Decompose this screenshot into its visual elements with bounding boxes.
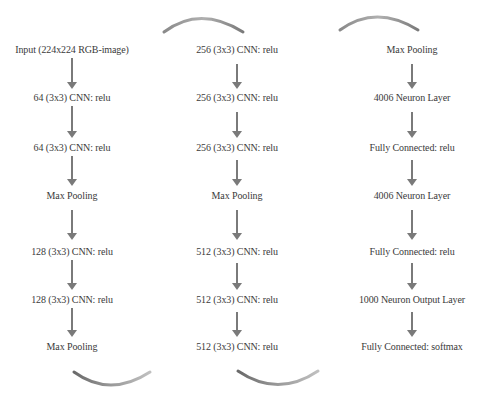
node-fc-relu-1: Fully Connected: relu <box>369 142 454 153</box>
node-conv128-1: 128 (3x3) CNN: relu <box>31 246 113 257</box>
node-neuron-layer-1: 4006 Neuron Layer <box>374 92 451 103</box>
curved-arrow-icon-top-right <box>340 17 418 30</box>
curved-arrow-icon-top-left <box>164 19 243 33</box>
down-arrow-icon <box>232 112 242 138</box>
node-output-layer: 1000 Neuron Output Layer <box>359 294 465 305</box>
node-fc-softmax: Fully Connected: softmax <box>361 341 462 352</box>
node-conv64-2: 64 (3x3) CNN: relu <box>34 142 111 153</box>
down-arrow-icon <box>67 210 77 240</box>
down-arrow-icon <box>407 112 417 138</box>
curved-arrow-icon-bottom-left <box>74 372 150 385</box>
down-arrow-icon <box>232 263 242 290</box>
down-arrow-icon <box>232 160 242 186</box>
down-arrow-icon <box>407 263 417 290</box>
down-arrow-icon <box>232 64 242 89</box>
down-arrow-icon <box>67 58 77 89</box>
node-maxpool-3: Max Pooling <box>212 190 263 201</box>
down-arrow-icon <box>67 156 77 186</box>
node-conv256-1: 256 (3x3) CNN: relu <box>196 44 278 55</box>
node-conv64-1: 64 (3x3) CNN: relu <box>34 92 111 103</box>
curved-arrow-icon-bottom-right <box>238 371 318 385</box>
down-arrow-icon <box>232 312 242 337</box>
node-conv128-2: 128 (3x3) CNN: relu <box>31 294 113 305</box>
node-maxpool-4: Max Pooling <box>387 44 438 55</box>
down-arrow-icon <box>407 312 417 337</box>
node-fc-relu-2: Fully Connected: relu <box>369 246 454 257</box>
down-arrow-icon <box>407 64 417 89</box>
node-conv512-1: 512 (3x3) CNN: relu <box>196 246 278 257</box>
node-conv256-2: 256 (3x3) CNN: relu <box>196 92 278 103</box>
down-arrow-icon <box>407 160 417 186</box>
node-input: Input (224x224 RGB-image) <box>15 44 129 55</box>
node-maxpool-2: Max Pooling <box>47 341 98 352</box>
down-arrow-icon <box>232 210 242 240</box>
down-arrow-icon <box>67 106 77 138</box>
node-conv256-3: 256 (3x3) CNN: relu <box>196 142 278 153</box>
down-arrow-icon <box>67 308 77 337</box>
node-neuron-layer-2: 4006 Neuron Layer <box>374 190 451 201</box>
down-arrow-icon <box>407 210 417 240</box>
node-conv512-2: 512 (3x3) CNN: relu <box>196 294 278 305</box>
node-conv512-3: 512 (3x3) CNN: relu <box>196 341 278 352</box>
down-arrow-icon <box>67 260 77 290</box>
node-maxpool-1: Max Pooling <box>47 190 98 201</box>
